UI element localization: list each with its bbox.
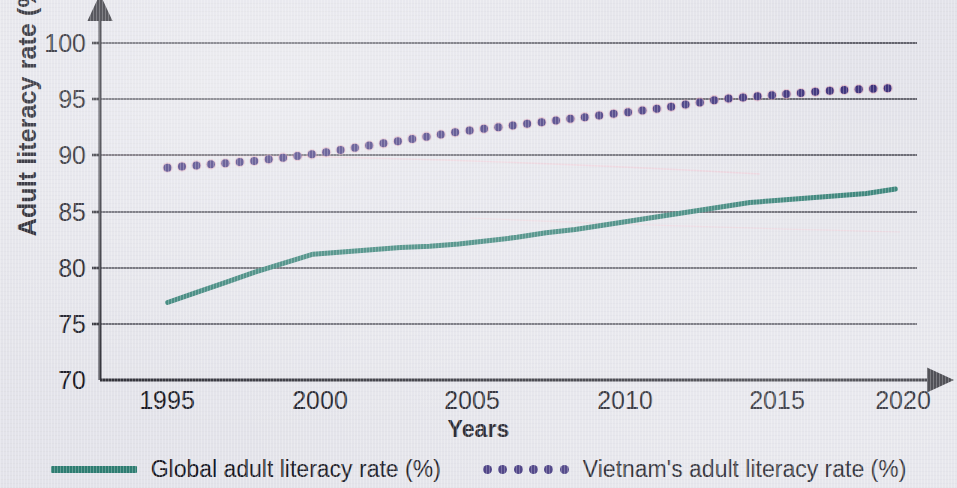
y-axis-title-wrap: Adult literacy rate (%) — [13, 0, 42, 272]
print-artifact-lines — [100, 155, 900, 232]
y-tick-label-70: 70 — [16, 366, 86, 395]
x-tick-label-2020: 2020 — [843, 386, 957, 415]
chart-legend: Global adult literacy rate (%) Vietnam's… — [0, 456, 957, 483]
y-axis-title: Adult literacy rate (%) — [13, 0, 41, 236]
legend-item-vietnam: Vietnam's adult literacy rate (%) — [483, 456, 907, 483]
legend-swatch-dotted-line-icon — [483, 465, 569, 475]
legend-swatch-solid-line-icon — [51, 466, 137, 473]
legend-label-global: Global adult literacy rate (%) — [151, 456, 441, 483]
series-global-adult-literacy — [168, 189, 896, 302]
x-tick-label-2005: 2005 — [412, 386, 532, 415]
x-axis-title: Years — [448, 416, 510, 442]
legend-label-vietnam: Vietnam's adult literacy rate (%) — [583, 456, 907, 483]
x-tick-label-2000: 2000 — [260, 386, 380, 415]
literacy-rate-line-chart: 100 95 90 85 80 75 70 1995 2000 2005 201… — [0, 0, 957, 488]
y-tick-label-75: 75 — [16, 310, 86, 339]
x-tick-label-2015: 2015 — [717, 386, 837, 415]
legend-item-global: Global adult literacy rate (%) — [51, 456, 441, 483]
x-tick-label-2010: 2010 — [565, 386, 685, 415]
x-tick-label-1995: 1995 — [107, 386, 227, 415]
x-axis-title-wrap: Years — [0, 416, 957, 443]
series-vietnam-adult-literacy — [162, 83, 892, 173]
